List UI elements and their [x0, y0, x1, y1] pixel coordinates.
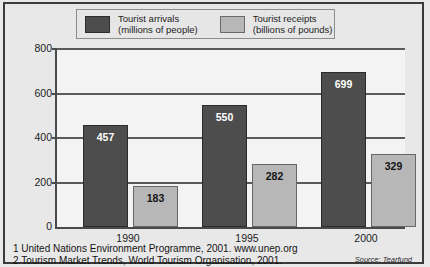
bar-value-receipts-1995: 282	[253, 170, 296, 182]
chart-figure: Tourist arrivals (millions of people) To…	[0, 0, 430, 267]
bar-value-receipts-1990: 183	[134, 192, 177, 204]
bar-receipts-1995[interactable]: 282	[252, 164, 297, 227]
footnotes: 1 United Nations Environment Programme, …	[13, 243, 298, 267]
figure-frame: Tourist arrivals (millions of people) To…	[3, 2, 424, 264]
legend-arrivals-line1: Tourist arrivals	[118, 13, 198, 25]
legend-item-receipts-label: Tourist receipts (billions of pounds)	[253, 13, 333, 36]
bar-value-arrivals-1995: 550	[203, 111, 246, 123]
legend-item-tourist-arrivals: Tourist arrivals (millions of people)	[85, 10, 198, 38]
bar-value-arrivals-1990: 457	[84, 131, 127, 143]
legend-receipts-line2: (billions of pounds)	[253, 24, 333, 36]
xtick-label-2000: 2000	[354, 232, 377, 244]
source-attribution: Source: Tearfund	[355, 255, 412, 264]
light-swatch-icon	[220, 16, 245, 33]
legend-item-arrivals-label: Tourist arrivals (millions of people)	[118, 13, 198, 36]
legend-arrivals-line2: (millions of people)	[118, 24, 198, 36]
legend-receipts-line1: Tourist receipts	[253, 13, 333, 25]
ytick-label-0: 0	[46, 220, 52, 232]
bar-group-container: 457 183 550 282 699 329	[57, 48, 405, 227]
chart-legend: Tourist arrivals (millions of people) To…	[76, 9, 335, 39]
bar-value-receipts-2000: 329	[372, 160, 415, 172]
bar-receipts-1990[interactable]: 183	[133, 186, 178, 227]
plot-area: 800 600 400 200 0 457	[55, 48, 405, 229]
bar-value-arrivals-2000: 699	[322, 78, 365, 90]
legend-item-tourist-receipts: Tourist receipts (billions of pounds)	[220, 10, 333, 38]
ytick-label-600: 600	[34, 87, 52, 99]
ytick-label-200: 200	[34, 176, 52, 188]
bar-arrivals-1990[interactable]: 457	[83, 125, 128, 227]
bar-arrivals-2000[interactable]: 699	[321, 72, 366, 228]
bar-arrivals-1995[interactable]: 550	[202, 105, 247, 227]
dark-swatch-icon	[85, 16, 110, 33]
bar-receipts-2000[interactable]: 329	[371, 154, 416, 227]
ytick-label-400: 400	[34, 131, 52, 143]
footnote-1: 1 United Nations Environment Programme, …	[13, 243, 298, 255]
footnote-2: 2 Tourism Market Trends, World Tourism O…	[13, 255, 298, 267]
ytick-label-800: 800	[34, 42, 52, 54]
